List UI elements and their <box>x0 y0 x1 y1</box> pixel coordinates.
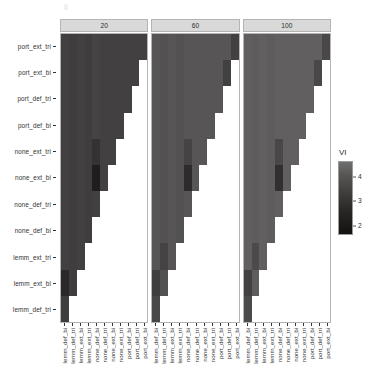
heatmap-cell <box>231 191 239 217</box>
x-axis-tickmark <box>163 323 164 326</box>
x-axis-20: lemm_def_bilemm_def_trilemm_ext_bilemm_e… <box>60 323 148 389</box>
y-axis-tick-label: none_ext_bi <box>15 174 51 181</box>
heatmap-cell <box>259 270 267 296</box>
heatmap-cell <box>132 86 140 112</box>
heatmap-cell <box>160 60 168 86</box>
heatmap-cell <box>275 217 283 243</box>
x-axis-tick-port_def_bi: port_def_bi <box>124 323 132 389</box>
heatmap-cell <box>100 243 108 269</box>
x-axis-tick-port_def_bi: port_def_bi <box>307 323 315 389</box>
heatmap-cell <box>283 60 291 86</box>
heatmap-cell <box>207 270 215 296</box>
heatmap-cell <box>132 296 140 322</box>
heatmap-cell <box>223 243 231 269</box>
y-axis-tick-label: port_ext_bi <box>18 69 51 76</box>
heatmap-cell <box>124 113 132 139</box>
heatmap-cell <box>69 139 77 165</box>
heatmap-cell <box>176 243 184 269</box>
y-axis-tickmark <box>53 151 56 152</box>
y-axis-tick-label: lemm_ext_tri <box>13 254 51 261</box>
heatmap-cell <box>176 139 184 165</box>
x-axis-tick-none_ext_tri: none_ext_tri <box>299 323 307 389</box>
heatmap-cell <box>314 34 322 60</box>
heatmap-cell <box>223 34 231 60</box>
heatmap-cell <box>176 113 184 139</box>
heatmap-cell <box>85 191 93 217</box>
heatmap-cell <box>61 86 69 112</box>
legend-tickmark <box>353 176 356 177</box>
y-axis-tick-none_ext_tri: none_ext_tri <box>0 138 58 164</box>
heatmap-cell <box>69 34 77 60</box>
heatmap-cell <box>69 113 77 139</box>
x-axis-tickmark <box>303 323 304 326</box>
x-axis-tick-label: none_def_bi <box>93 328 100 362</box>
heatmap-cell <box>92 243 100 269</box>
heatmap-cell <box>152 60 160 86</box>
heatmap-cell <box>132 34 140 60</box>
heatmap-cell <box>207 86 215 112</box>
heatmap-cell <box>252 217 260 243</box>
y-axis-tick-port_def_tri: port_def_tri <box>0 86 58 112</box>
heatmap-cell <box>92 270 100 296</box>
x-axis-tick-label: lemm_ext_tri <box>85 328 92 363</box>
heatmap-cell <box>192 191 200 217</box>
y-axis-tickmark <box>53 283 56 284</box>
heatmap-cell <box>322 86 330 112</box>
heatmap-cell <box>199 86 207 112</box>
heatmap-cell <box>244 34 252 60</box>
x-axis-tick-label: port_def_tri <box>133 328 140 359</box>
legend-colorbar <box>338 161 353 235</box>
heatmap-cell <box>291 113 299 139</box>
heatmap-cell <box>259 34 267 60</box>
heatmap-cell <box>306 60 314 86</box>
heatmap-cell <box>116 113 124 139</box>
heatmap-cell <box>231 270 239 296</box>
heatmap-cell <box>168 243 176 269</box>
heatmap-cell <box>61 270 69 296</box>
heatmap-cell <box>132 60 140 86</box>
heatmap-cell <box>259 139 267 165</box>
heatmap-cell <box>223 191 231 217</box>
heatmap-cell <box>192 34 200 60</box>
heatmap-cell <box>124 243 132 269</box>
x-axis-tick-lemm_ext_tri: lemm_ext_tri <box>267 323 275 389</box>
y-axis-tick-label: port_def_tri <box>17 95 51 102</box>
x-axis-tickmark <box>171 323 172 326</box>
panel-cell-grid <box>244 34 330 322</box>
x-axis-tick-none_def_bi: none_def_bi <box>92 323 100 389</box>
heatmap-cell <box>299 165 307 191</box>
heatmap-cell <box>231 243 239 269</box>
x-axis-tick-lemm_def_tri: lemm_def_tri <box>251 323 259 389</box>
y-axis-tickmark <box>53 125 56 126</box>
x-axis-tick-lemm_ext_bi: lemm_ext_bi <box>167 323 175 389</box>
heatmap-cell <box>69 191 77 217</box>
heatmap-cell <box>139 34 147 60</box>
heatmap-cell <box>215 139 223 165</box>
heatmap-cell <box>223 296 231 322</box>
heatmap-cell <box>184 113 192 139</box>
panel-20 <box>60 33 148 323</box>
heatmap-cell <box>100 270 108 296</box>
heatmap-cell <box>215 270 223 296</box>
heatmap-cell <box>100 113 108 139</box>
heatmap-cell <box>77 270 85 296</box>
heatmap-cell <box>322 34 330 60</box>
heatmap-cell <box>223 113 231 139</box>
x-axis-tickmark <box>72 323 73 326</box>
heatmap-cell <box>306 113 314 139</box>
y-axis-tickmark <box>53 230 56 231</box>
heatmap-cell <box>192 86 200 112</box>
heatmap-cell <box>132 217 140 243</box>
y-axis-tick-port_ext_bi: port_ext_bi <box>0 59 58 85</box>
heatmap-cell <box>275 270 283 296</box>
x-axis-tick-none_ext_tri: none_ext_tri <box>116 323 124 389</box>
heatmap-cell <box>176 165 184 191</box>
heatmap-cell <box>69 165 77 191</box>
heatmap-cell <box>116 270 124 296</box>
heatmap-cell <box>252 60 260 86</box>
heatmap-cell <box>267 86 275 112</box>
x-axis-tickmark <box>263 323 264 326</box>
heatmap-cell <box>69 217 77 243</box>
heatmap-cell <box>322 217 330 243</box>
heatmap-cell <box>85 296 93 322</box>
